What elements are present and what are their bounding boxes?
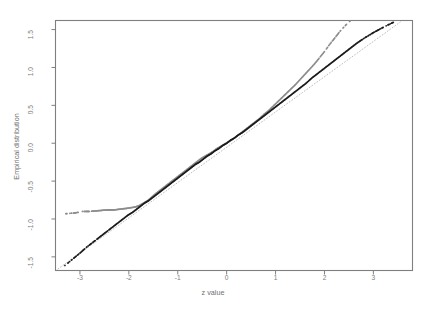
x-tick-label: -1 bbox=[175, 274, 181, 281]
x-tick-label: 0 bbox=[225, 274, 229, 281]
gray-empirical-series bbox=[65, 20, 351, 214]
x-tick-label: -3 bbox=[77, 274, 83, 281]
x-axis-label: z value bbox=[0, 288, 426, 297]
y-tick-label: 0.0 bbox=[27, 143, 34, 152]
qq-plot-figure: z value Empirical distribution -3-2-1012… bbox=[0, 0, 426, 310]
y-tick-label: 1.5 bbox=[27, 30, 34, 39]
y-tick-label: -0.5 bbox=[27, 181, 34, 192]
y-tick-label: 1.0 bbox=[27, 67, 34, 76]
x-tick-label: -2 bbox=[126, 274, 132, 281]
x-tick-label: 2 bbox=[323, 274, 327, 281]
reference-line-series bbox=[58, 22, 400, 269]
plot-frame bbox=[56, 21, 413, 271]
y-axis-label: Empirical distribution bbox=[12, 87, 21, 207]
y-tick-label: -1.0 bbox=[27, 219, 34, 230]
y-tick-label: 0.5 bbox=[27, 105, 34, 114]
black-empirical-series bbox=[64, 21, 394, 266]
y-tick-label: -1.5 bbox=[27, 257, 34, 268]
x-tick-label: 3 bbox=[372, 274, 376, 281]
plot-canvas bbox=[0, 0, 426, 310]
x-tick-label: 1 bbox=[274, 274, 278, 281]
